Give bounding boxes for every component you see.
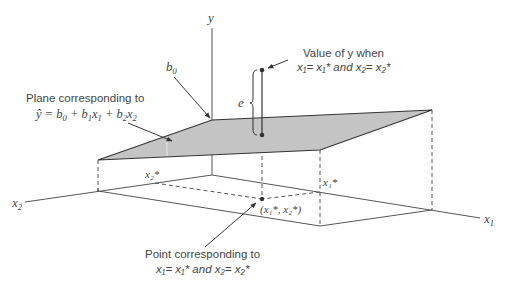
point-coordinate-label: (x₁*, x₂*) — [260, 203, 302, 216]
x2-star-label: x₂* — [144, 168, 160, 180]
y-axis-label: y — [206, 10, 214, 25]
residual-label: e — [238, 95, 244, 110]
b0-label: b0 — [166, 59, 178, 76]
plane-arrow — [128, 123, 172, 141]
regression-plane-diagram: y x2 x1 b0 Plane corresponding to ŷ = b0… — [0, 0, 507, 293]
point-annotation-line1: Point corresponding to — [145, 248, 260, 260]
observed-point — [260, 68, 265, 73]
x2-axis — [25, 175, 212, 202]
x2-star-guide — [155, 183, 262, 199]
plane-annotation-equation: ŷ = b0 + b1x1 + b2x2 — [34, 107, 138, 123]
b0-arrow — [174, 77, 210, 118]
x1-axis — [212, 175, 480, 218]
x1-star-label: x₁* — [322, 176, 338, 188]
predicted-point — [260, 133, 265, 138]
regression-plane — [98, 110, 432, 160]
plane-annotation-line1: Plane corresponding to — [26, 92, 144, 104]
x1-star-guide — [262, 192, 320, 199]
point-annotation-line2: x₁= x₁* and x₂= x₂* — [155, 263, 250, 275]
x2-axis-label: x2 — [11, 195, 23, 212]
floor-edge-front-right — [320, 210, 432, 226]
x1-axis-label: x1 — [483, 211, 494, 228]
point-arrow — [205, 203, 256, 247]
observed-arrow — [268, 60, 288, 68]
observed-annotation-line2: x₁= x₁* and x₂= x₂* — [296, 61, 391, 73]
floor-point — [260, 197, 264, 201]
observed-annotation-line1: Value of y when — [303, 47, 384, 59]
